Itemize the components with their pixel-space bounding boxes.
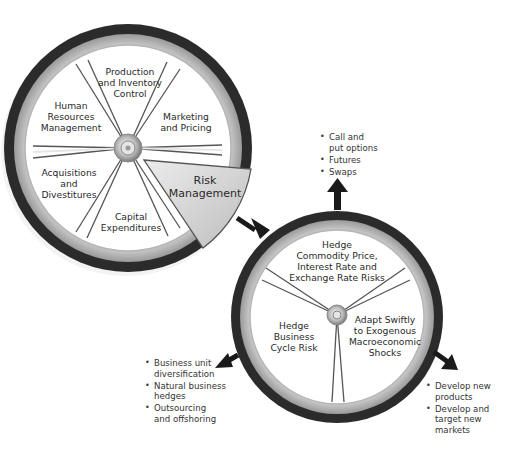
main-wheel	[1, 24, 252, 276]
callout-item: Call and put options	[320, 132, 410, 153]
arrow-up-head	[327, 178, 348, 192]
segment-capital: Capital Expenditures	[98, 211, 164, 233]
callout-right: Develop new products Develop and target …	[426, 381, 508, 437]
arrow-right-shaft	[434, 352, 448, 362]
callout-left: Business unit diversification Natural bu…	[145, 358, 240, 426]
callout-top: Call and put options Futures Swaps	[320, 132, 410, 179]
callout-item: Outsourcing and offshoring	[145, 403, 240, 424]
callout-item: Futures	[320, 155, 410, 166]
callout-item: Natural business hedges	[145, 381, 240, 402]
segment-risk-management: Risk Management	[164, 174, 246, 200]
arrow-up-shaft	[334, 190, 341, 210]
arrow-to-risk-wheel	[237, 218, 270, 239]
segment-marketing: Marketing and Pricing	[150, 111, 222, 133]
segment-acquisitions: Acquisitions and Divestitures	[38, 167, 100, 200]
segment-adapt: Adapt Swiftly to Exogenous Macroeconomic…	[347, 314, 423, 358]
segment-production: Production and Inventory Control	[92, 66, 168, 99]
callout-item: Swaps	[320, 167, 410, 178]
segment-hedge-business: Hedge Business Cycle Risk	[266, 320, 322, 353]
callout-item: Develop new products	[426, 381, 508, 402]
callout-item: Develop and target new markets	[426, 404, 508, 436]
callout-item: Business unit diversification	[145, 358, 240, 379]
segment-hr: Human Resources Management	[40, 100, 102, 133]
segment-hedge-commodity: Hedge Commodity Price, Interest Rate and…	[287, 239, 387, 283]
